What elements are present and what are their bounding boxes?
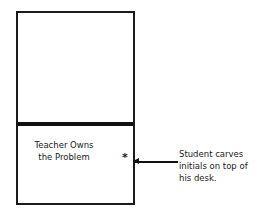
note-line-3: his desk. xyxy=(179,172,248,184)
label-line-2: the Problem xyxy=(18,151,110,163)
note-line-2: initials on top of xyxy=(179,160,248,172)
label-line-1: Teacher Owns xyxy=(18,139,110,151)
arrow-line xyxy=(134,161,178,163)
annotation-note: Student carves initials on top of his de… xyxy=(179,148,248,184)
teacher-owns-label: Teacher Owns the Problem xyxy=(18,139,110,163)
note-line-1: Student carves xyxy=(179,148,248,160)
region-divider xyxy=(18,122,133,126)
asterisk-marker: * xyxy=(122,151,128,164)
ownership-box xyxy=(16,11,135,205)
